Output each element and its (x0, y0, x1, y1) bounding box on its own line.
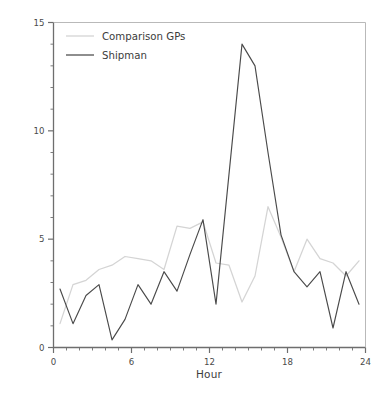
x-axis-tick-label: 0 (51, 357, 56, 367)
y-axis-label: Percentage of deaths (0, 0, 24, 396)
series-layer (60, 44, 359, 340)
series-line-shipman (60, 44, 359, 340)
x-axis-tick-label: 12 (204, 357, 215, 367)
y-axis-tick-label: 0 (39, 343, 44, 353)
x-axis-label: Hour (53, 368, 365, 380)
line-chart-plot: 06121824051015 Comparison GPsShipman (0, 0, 391, 396)
x-axis-tick-label: 18 (282, 357, 293, 367)
y-axis-tick-label: 15 (34, 18, 45, 28)
legend-item-label: Comparison GPs (102, 31, 185, 42)
axis-spines (54, 23, 366, 348)
y-axis-tick-label: 10 (34, 126, 45, 136)
x-axis-tick-label: 6 (129, 357, 134, 367)
chart-legend: Comparison GPsShipman (66, 31, 185, 61)
legend-item-label: Shipman (102, 50, 147, 61)
plot-frame (54, 23, 366, 348)
y-axis-tick-label: 5 (39, 234, 44, 244)
x-axis-tick-label: 24 (360, 357, 371, 367)
chart-container: Percentage of deaths Hour 06121824051015… (0, 0, 391, 396)
axes-layer: 06121824051015 (34, 18, 371, 367)
